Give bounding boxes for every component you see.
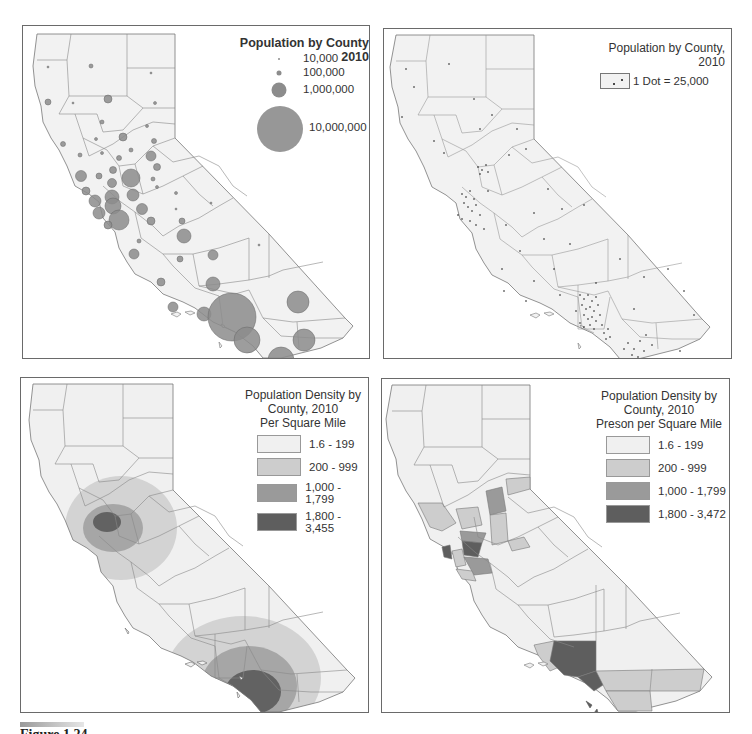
class-swatch	[257, 435, 301, 453]
legend-title: Population by County, 2010	[580, 41, 725, 69]
choropleth-legend: Population Density by County, 2010 Preso…	[588, 389, 730, 523]
dot-density-legend: Population by County, 2010 1 Dot = 25,00…	[580, 41, 725, 89]
legend-title-line2: County, 2010	[588, 403, 730, 417]
dot-sample-icon	[600, 73, 630, 89]
islands-light	[524, 662, 548, 668]
symbol-circle-icon	[269, 53, 289, 65]
class-label: 1.6 - 199	[309, 438, 354, 450]
proportional-symbol-map-panel: Population by County 2010 10,000 100,000…	[22, 25, 370, 359]
dot-density-map-panel: Population by County, 2010 1 Dot = 25,00…	[383, 28, 732, 359]
class-label: 1,800 - 3,472	[658, 508, 726, 520]
legend-class-1: 1.6 - 199	[606, 436, 730, 454]
legend-class-4: 1,800 - 3,472	[606, 505, 730, 523]
legend-title-line2: County, 2010	[239, 402, 367, 416]
legend-title-line1: Population Density by	[239, 388, 367, 402]
legend-title-line3: Preson per Square Mile	[588, 417, 730, 431]
class-label: 200 - 999	[658, 462, 707, 474]
legend-class-2: 200 - 999	[606, 459, 730, 477]
isopleth-legend: Population Density by County, 2010 Per S…	[239, 388, 367, 534]
caption-accent-bar	[20, 722, 84, 727]
class-label: 1,800 - 3,455	[305, 510, 367, 534]
class-swatch	[257, 513, 297, 531]
dot-legend-label: 1 Dot = 25,000	[633, 75, 709, 87]
legend-title: Population by County 2010	[223, 36, 369, 64]
figure-caption: Figure 1.24	[20, 728, 87, 734]
class-swatch	[257, 484, 297, 502]
legend-symbol-100000	[269, 67, 289, 81]
class-label: 200 - 999	[309, 461, 358, 473]
class-swatch	[606, 505, 650, 523]
symbol-circle-icon	[265, 80, 293, 100]
legend-label: 1,000,000	[303, 83, 354, 95]
class-swatch	[257, 458, 301, 476]
class-swatch	[606, 436, 650, 454]
symbol-circle-large-icon	[255, 104, 305, 154]
legend-label: 10,000	[303, 52, 338, 64]
legend-label: 10,000,000	[309, 121, 367, 133]
legend-title-line1: Population Density by	[588, 389, 730, 403]
class-label: 1,000 - 1,799	[658, 485, 726, 497]
dot-legend-row: 1 Dot = 25,000	[600, 73, 725, 89]
isopleth-density-map-panel: Population Density by County, 2010 Per S…	[20, 377, 369, 713]
legend-symbol-1000000	[265, 80, 293, 102]
legend-class-1: 1.6 - 199	[257, 435, 367, 453]
legend-title-line3: Per Square Mile	[239, 416, 367, 430]
legend-class-2: 200 - 999	[257, 458, 367, 476]
class-label: 1.6 - 199	[658, 439, 703, 451]
legend-symbol-10000	[269, 53, 289, 67]
legend-class-4: 1,800 - 3,455	[257, 510, 367, 534]
legend-label: 100,000	[303, 66, 345, 78]
class-swatch	[606, 459, 650, 477]
choropleth-density-map-panel: Population Density by County, 2010 Preso…	[381, 378, 730, 713]
class-swatch	[606, 482, 650, 500]
legend-class-3: 1,000 - 1,799	[257, 481, 367, 505]
islands	[586, 701, 598, 713]
legend-class-3: 1,000 - 1,799	[606, 482, 730, 500]
symbol-circle-icon	[269, 67, 289, 79]
class-label: 1,000 - 1,799	[305, 481, 367, 505]
